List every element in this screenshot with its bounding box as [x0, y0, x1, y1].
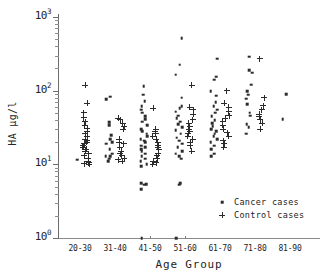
cancer-case-point [141, 130, 144, 133]
cancer-case-point [248, 55, 251, 58]
cancer-case-point [247, 93, 250, 96]
control-case-point [221, 144, 227, 150]
cancer-case-point [142, 93, 145, 96]
cancer-case-point [105, 143, 108, 146]
cancer-case-point [143, 183, 146, 186]
cancer-case-point [214, 112, 217, 115]
cancer-case-point [140, 237, 143, 240]
cancer-case-point [108, 124, 111, 127]
cancer-case-point [177, 123, 180, 126]
scatter-plot-figure: 100101102103 20-3031-4041-5051-6061-7071… [0, 0, 324, 278]
cancer-case-point [144, 152, 147, 155]
legend-label: Cancer cases [234, 196, 299, 209]
x-axis-title: Age Group [58, 258, 320, 271]
cancer-case-point [105, 98, 108, 101]
cancer-case-point [179, 120, 182, 123]
cancer-case-point [141, 105, 144, 108]
x-axis-tick-label: 41-50 [138, 244, 161, 253]
cancer-case-point [178, 139, 181, 142]
cancer-case-point [141, 112, 144, 115]
cancer-case-point [141, 155, 144, 158]
y-axis-tick-label: 100 [35, 231, 51, 242]
cancer-case-point [214, 101, 217, 104]
cancer-case-point [178, 183, 181, 186]
cancer-case-point [246, 90, 249, 93]
cancer-case-point [139, 138, 142, 141]
cancer-case-point [181, 150, 184, 153]
cancer-case-point [144, 100, 147, 103]
cancer-case-point [212, 105, 215, 108]
cancer-case-point [174, 152, 177, 155]
legend-dot-icon [221, 201, 224, 204]
cancer-case-point [210, 115, 213, 118]
cancer-case-point [144, 157, 147, 160]
cancer-case-point [174, 129, 177, 132]
cancer-case-point [213, 152, 216, 155]
cancer-case-point [141, 120, 144, 123]
cancer-case-point [212, 135, 215, 138]
x-axis-tick-label: 61-70 [208, 244, 231, 253]
x-axis-line [58, 238, 320, 239]
cancer-case-point [175, 237, 178, 240]
control-case-point [189, 148, 195, 154]
cancer-case-point [108, 148, 111, 151]
legend-plus-icon [219, 212, 225, 218]
cancer-case-point [146, 124, 149, 127]
control-case-point [119, 158, 125, 164]
control-case-point [257, 56, 263, 62]
cancer-case-point [144, 146, 147, 149]
cancer-case-point [107, 160, 110, 163]
cancer-case-point [180, 157, 183, 160]
cancer-case-point [215, 95, 218, 98]
cancer-case-point [140, 188, 143, 191]
control-case-point [261, 95, 267, 101]
cancer-case-point [216, 58, 219, 61]
cancer-case-point [109, 95, 112, 98]
x-axis-tick-label: 31-40 [103, 244, 126, 253]
cancer-case-point [144, 118, 147, 121]
cancer-case-point [142, 85, 145, 88]
cancer-case-point [140, 144, 143, 147]
y-axis-tick-label: 101 [35, 157, 51, 168]
cancer-case-point [210, 128, 213, 131]
chart-legend: Cancer casesControl cases [222, 196, 304, 222]
cancer-case-point [248, 69, 251, 72]
control-case-point [257, 126, 263, 132]
cancer-case-point [146, 163, 149, 166]
legend-label: Control cases [234, 209, 304, 222]
cancer-case-point [179, 63, 182, 66]
x-axis-tick-label: 71-80 [243, 244, 266, 253]
x-axis-tick-label: 51-60 [173, 244, 196, 253]
cancer-case-point [246, 103, 249, 106]
cancer-case-point [176, 146, 179, 149]
cancer-case-point [209, 141, 212, 144]
control-case-point [150, 105, 156, 111]
control-case-point [84, 100, 90, 106]
cancer-case-point [181, 37, 184, 40]
cancer-case-point [209, 90, 212, 93]
control-case-point [86, 161, 92, 167]
control-case-point [224, 88, 230, 94]
cancer-case-point [213, 119, 216, 122]
cancer-case-point [181, 143, 184, 146]
control-case-point [226, 133, 232, 139]
cancer-case-point [140, 165, 143, 168]
cancer-case-point [176, 117, 179, 120]
legend-item: Control cases [222, 209, 304, 222]
y-axis-major-tick [53, 238, 59, 239]
cancer-case-point [247, 126, 250, 129]
cancer-case-point [251, 71, 254, 74]
cancer-case-point [215, 75, 218, 78]
cancer-case-point [210, 148, 213, 151]
cancer-case-point [179, 107, 182, 110]
legend-item: Cancer cases [222, 196, 304, 209]
cancer-case-point [179, 132, 182, 135]
control-case-point [150, 161, 156, 167]
cancer-case-point [104, 155, 107, 158]
cancer-case-point [110, 134, 113, 137]
cancer-case-point [76, 159, 79, 162]
cancer-case-point [216, 138, 219, 141]
cancer-case-point [141, 150, 144, 153]
cancer-case-point [245, 97, 248, 100]
cancer-case-point [181, 126, 184, 129]
